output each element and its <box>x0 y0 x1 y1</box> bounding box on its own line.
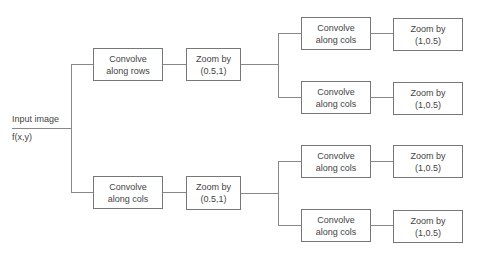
connector <box>371 225 393 226</box>
sub-trunk <box>278 33 279 98</box>
zoom-box: Zoom by (0.5,1) <box>186 176 241 210</box>
trunk-bottom-branch <box>71 192 93 193</box>
connector <box>241 64 278 65</box>
convolve-cols-box: Convolve along cols <box>301 81 371 114</box>
trunk-vertical <box>71 64 72 193</box>
connector <box>163 192 186 193</box>
zoom-box: Zoom by (0.5,1) <box>186 48 241 81</box>
connector <box>371 97 393 98</box>
connector <box>278 97 301 98</box>
zoom-box: Zoom by (1,0.5) <box>393 82 463 115</box>
sub-trunk <box>278 161 279 226</box>
trunk-top-branch <box>71 64 93 65</box>
convolve-cols-box: Convolve along cols <box>93 176 163 209</box>
convolve-cols-box: Convolve along cols <box>301 209 371 242</box>
connector <box>278 225 301 226</box>
zoom-box: Zoom by (1,0.5) <box>393 145 463 178</box>
convolve-cols-box: Convolve along cols <box>301 145 371 178</box>
connector <box>241 193 278 194</box>
connector <box>371 33 393 34</box>
connector <box>371 161 393 162</box>
connector <box>278 33 301 34</box>
input-function-label: f(x,y) <box>12 132 32 142</box>
input-image-label: Input image <box>12 114 59 124</box>
connector <box>278 161 301 162</box>
convolve-rows-box: Convolve along rows <box>93 48 163 81</box>
connector <box>163 64 186 65</box>
zoom-box: Zoom by (1,0.5) <box>393 210 463 243</box>
convolve-cols-box: Convolve along cols <box>301 17 371 50</box>
input-underline <box>12 128 72 129</box>
zoom-box: Zoom by (1,0.5) <box>393 18 463 51</box>
